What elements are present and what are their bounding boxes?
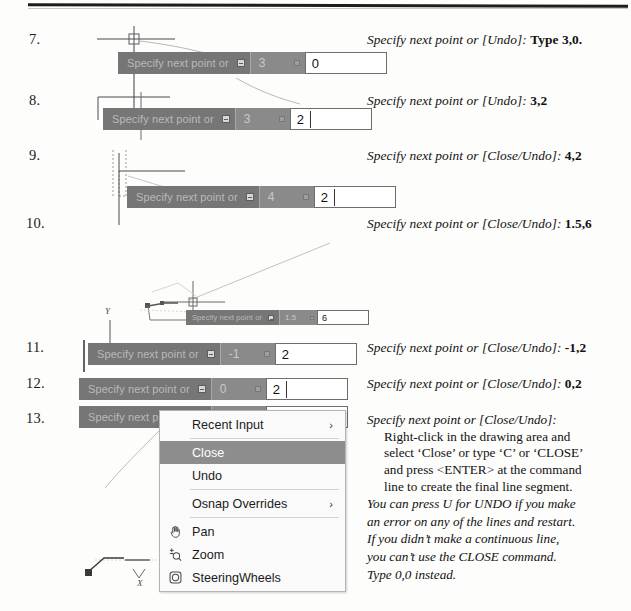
- dyn-x-field[interactable]: 1.5: [279, 310, 306, 325]
- menu-item-label: Close: [190, 446, 333, 460]
- prompt-lead: Specify next point or [Close/Undo]:: [367, 148, 561, 163]
- note-body-line-4: line to create the final line segment.: [367, 479, 629, 496]
- dyn-x-field[interactable]: 4: [259, 186, 298, 208]
- menu-item-recent-input[interactable]: Recent Input ›: [160, 413, 345, 436]
- dyn-x-field[interactable]: 3: [235, 108, 274, 130]
- prompt-lead: Specify next point or [Close/Undo]:: [367, 216, 561, 231]
- menu-item-zoom[interactable]: Zoom: [160, 543, 345, 566]
- chevron-right-icon: ›: [329, 498, 337, 510]
- dynamic-input-tooltip-step8[interactable]: Specify next point or 3 2: [103, 108, 372, 130]
- prompt-lead: Specify next point or [Close/Undo]:: [367, 340, 561, 355]
- dyn-command-label: Specify next point or: [186, 310, 266, 325]
- dyn-y-field[interactable]: 6: [317, 310, 369, 325]
- keyboard-hint-icon: [235, 52, 250, 74]
- dyn-x-field[interactable]: 3: [250, 52, 289, 74]
- menu-separator: [190, 517, 339, 518]
- page-header-rule: [28, 3, 628, 7]
- menu-separator: [190, 489, 339, 490]
- prompt-value: Type 3,0.: [530, 32, 582, 47]
- keyboard-hint-icon: [266, 310, 279, 325]
- prompt-step-8: Specify next point or [Undo]: 3,2: [367, 92, 629, 109]
- prompt-value: -1,2: [565, 340, 586, 355]
- coordinate-separator-icon: [289, 52, 305, 74]
- dyn-command-label: Specify next point or: [118, 52, 235, 74]
- zoom-icon: [160, 547, 190, 562]
- menu-item-label: Undo: [190, 469, 333, 483]
- dyn-x-field[interactable]: 0: [211, 378, 250, 400]
- dyn-command-label: Specify next point or: [79, 378, 196, 400]
- autocad-context-menu[interactable]: Recent Input › Close Undo Osnap Override…: [159, 410, 346, 592]
- ucs-y-axis-label: Y: [105, 306, 110, 316]
- dyn-command-label: Specify next point or: [88, 343, 205, 365]
- dyn-command-label: Specify next point or: [103, 108, 220, 130]
- menu-item-pan[interactable]: Pan: [160, 520, 345, 543]
- menu-item-label: Zoom: [190, 548, 333, 562]
- dyn-y-field[interactable]: 2: [290, 108, 372, 130]
- prompt-step-9: Specify next point or [Close/Undo]: 4,2: [367, 147, 629, 164]
- note-tail-line-5: Type 0,0 instead.: [367, 566, 629, 584]
- steeringwheel-icon: [160, 570, 190, 585]
- dynamic-input-tooltip-step9[interactable]: Specify next point or 4 2: [127, 186, 396, 208]
- dynamic-input-tooltip-step12[interactable]: Specify next point or 0 2: [79, 378, 348, 400]
- prompt-value: 3,2: [530, 93, 547, 108]
- dyn-command-label: Specify next point or: [127, 186, 244, 208]
- keyboard-hint-icon: [220, 108, 235, 130]
- prompt-value: 1.5,6: [565, 216, 592, 231]
- scanned-page: 7. 8. 9. 10. 11. 12. 13. Specify next po…: [0, 0, 631, 611]
- dynamic-input-tooltip-step10[interactable]: Specify next point or 1.5 6: [186, 310, 369, 325]
- coordinate-separator-icon: [306, 310, 317, 325]
- note-tail-line-4: you can’t use the CLOSE command.: [367, 548, 629, 566]
- page-header-rule-secondary: [28, 8, 628, 9]
- prompt-lead: Specify next point or [Undo]:: [367, 93, 527, 108]
- dynamic-input-tooltip-step7[interactable]: Specify next point or 3 0: [118, 52, 387, 74]
- dynamic-input-tooltip-step11[interactable]: Specify next point or -1 2: [88, 343, 357, 365]
- step-13-instructions: Specify next point or [Close/Undo]: Righ…: [367, 412, 629, 583]
- ucs-x-axis-label: X: [137, 578, 143, 588]
- menu-separator: [190, 438, 339, 439]
- note-body-line-1: Right-click in the drawing area and: [367, 429, 629, 446]
- menu-item-osnap-overrides[interactable]: Osnap Overrides ›: [160, 492, 345, 515]
- dyn-y-field[interactable]: 2: [275, 343, 357, 365]
- keyboard-hint-icon: [244, 186, 259, 208]
- dyn-y-field[interactable]: 2: [314, 186, 396, 208]
- prompt-step-12: Specify next point or [Close/Undo]: 0,2: [367, 375, 629, 392]
- step-number-11: 11.: [26, 339, 44, 356]
- coordinate-separator-icon: [298, 186, 314, 208]
- prompt-step-11: Specify next point or [Close/Undo]: -1,2: [367, 339, 629, 356]
- prompt-lead: Specify next point or [Undo]:: [367, 32, 527, 47]
- keyboard-hint-icon: [205, 343, 220, 365]
- menu-item-steeringwheels[interactable]: SteeringWheels: [160, 566, 345, 589]
- note-header: Specify next point or [Close/Undo]:: [367, 412, 557, 427]
- prompt-step-7: Specify next point or [Undo]: Type 3,0.: [367, 31, 629, 48]
- coordinate-separator-icon: [250, 378, 266, 400]
- step-number-12: 12.: [26, 375, 45, 392]
- prompt-value: 0,2: [565, 376, 582, 391]
- step-number-9: 9.: [29, 147, 40, 164]
- prompt-step-10: Specify next point or [Close/Undo]: 1.5,…: [367, 215, 629, 232]
- step-number-13: 13.: [26, 410, 45, 427]
- coordinate-separator-icon: [259, 343, 275, 365]
- prompt-value: 4,2: [565, 148, 582, 163]
- note-body-line-3: and press <ENTER> at the command: [367, 462, 629, 479]
- step-number-10: 10.: [26, 215, 45, 232]
- hand-icon: [160, 524, 190, 539]
- menu-item-undo[interactable]: Undo: [160, 464, 345, 487]
- menu-item-close[interactable]: Close: [160, 441, 345, 464]
- step-number-7: 7.: [29, 31, 40, 48]
- keyboard-hint-icon: [196, 378, 211, 400]
- step-number-8: 8.: [29, 92, 40, 109]
- menu-item-label: SteeringWheels: [190, 571, 333, 585]
- dyn-y-field[interactable]: 2: [266, 378, 348, 400]
- note-tail-line-2: an error on any of the lines and restart…: [367, 513, 629, 531]
- coordinate-separator-icon: [274, 108, 290, 130]
- menu-item-label: Recent Input: [190, 418, 329, 432]
- note-tail-line-1: You can press U for UNDO if you make: [367, 495, 629, 513]
- note-body-line-2: select ‘Close’ or type ‘C’ or ‘CLOSE’: [367, 445, 629, 462]
- menu-item-label: Pan: [190, 525, 333, 539]
- chevron-right-icon: ›: [329, 419, 337, 431]
- menu-item-label: Osnap Overrides: [190, 497, 329, 511]
- dyn-x-field[interactable]: -1: [220, 343, 259, 365]
- prompt-lead: Specify next point or [Close/Undo]:: [367, 376, 561, 391]
- note-tail-line-3: If you didn’t make a continuous line,: [367, 530, 629, 548]
- dyn-y-field[interactable]: 0: [305, 52, 387, 74]
